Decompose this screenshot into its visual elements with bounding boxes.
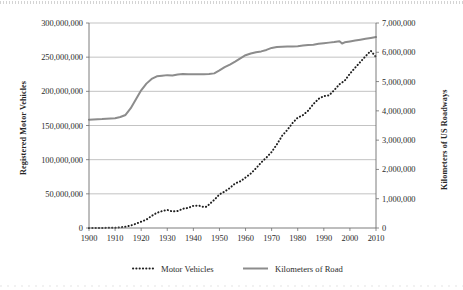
left-axis-tick-label: 100,000,000: [41, 156, 83, 165]
legend-label-motor-vehicles: Motor Vehicles: [161, 264, 214, 274]
x-axis: 1900191019201930194019501960197019801990…: [81, 228, 385, 243]
right-axis-tick-label: 2,000,000: [382, 165, 416, 174]
left-axis-tick-label: 150,000,000: [41, 122, 83, 131]
right-axis-tick-label: 3,000,000: [382, 136, 416, 145]
left-axis-tick-label: 300,000,000: [41, 19, 83, 28]
left-axis-tick-label: 50,000,000: [45, 190, 83, 199]
dual-axis-line-chart: 050,000,000100,000,000150,000,000200,000…: [0, 0, 463, 290]
right-axis-tick-label: 6,000,000: [382, 48, 416, 57]
chart-legend: Motor Vehicles Kilometers of Road: [133, 264, 343, 274]
x-axis-tick-label: 1990: [315, 234, 332, 243]
left-axis-title: Registered Motor Vehicles: [19, 81, 28, 175]
x-axis-tick-label: 1930: [159, 234, 176, 243]
x-axis-tick-label: 2000: [342, 234, 359, 243]
right-axis-tick-label: 5,000,000: [382, 78, 416, 87]
x-axis-tick-label: 1910: [107, 234, 124, 243]
x-axis-tick-label: 1920: [133, 234, 150, 243]
x-axis-tick-label: 1950: [211, 234, 228, 243]
left-axis-tick-label: 200,000,000: [41, 87, 83, 96]
left-axis-tick-label: 250,000,000: [41, 53, 83, 62]
left-axis: 050,000,000100,000,000150,000,000200,000…: [41, 19, 89, 233]
x-axis-tick-label: 2010: [368, 234, 385, 243]
x-axis-tick-label: 1900: [81, 234, 98, 243]
right-axis-title: Kilometers of US Roadways: [440, 89, 449, 190]
right-axis-tick-label: 4,000,000: [382, 107, 416, 116]
legend-label-kilometers-of-road: Kilometers of Road: [275, 264, 343, 274]
x-axis-tick-label: 1980: [289, 234, 306, 243]
chart-figure: 050,000,000100,000,000150,000,000200,000…: [0, 0, 463, 290]
x-axis-tick-label: 1970: [263, 234, 280, 243]
x-axis-tick-label: 1960: [237, 234, 254, 243]
x-axis-tick-label: 1940: [185, 234, 202, 243]
scan-artifact-top: [0, 1, 463, 4]
right-axis-tick-label: 1,000,000: [382, 195, 416, 204]
scan-artifact-bottom: [0, 285, 463, 287]
left-axis-tick-label: 0: [79, 224, 83, 233]
right-axis-tick-label: 7,000,000: [382, 19, 416, 28]
right-axis-tick-label: 0: [382, 224, 386, 233]
right-axis: 01,000,0002,000,0003,000,0004,000,0005,0…: [376, 19, 416, 233]
